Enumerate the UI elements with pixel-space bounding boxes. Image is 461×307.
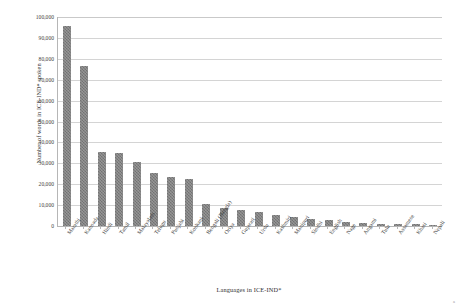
x-label-slot: Sindhi [301, 230, 318, 282]
x-tick-mark [240, 226, 241, 229]
bar [133, 162, 141, 226]
x-label-slot: English [319, 230, 336, 282]
x-label-slot: Punjabi [162, 230, 179, 282]
bar-slot [58, 17, 75, 226]
bar [98, 152, 106, 226]
x-tick-mark [275, 226, 276, 229]
x-label-slot: Hindi [92, 230, 109, 282]
x-tick-mark [222, 226, 223, 229]
x-tick-mark [344, 226, 345, 229]
x-label-slot: Angami [354, 230, 371, 282]
bar-slot [198, 17, 215, 226]
x-tick-mark [327, 226, 328, 229]
x-label-slot: Bengali (Bangla) [197, 230, 214, 282]
x-tick-mark [310, 226, 311, 229]
x-label-slot: Oriya [214, 230, 231, 282]
bar [115, 153, 123, 226]
bar [185, 179, 193, 226]
x-label-slot: Marathi [57, 230, 74, 282]
x-tick-mark [292, 226, 293, 229]
bar-slot [372, 17, 389, 226]
x-label-slot: Urdu [249, 230, 266, 282]
bar-slot [337, 17, 354, 226]
x-label-slot: Nepali [424, 230, 441, 282]
y-axis-tick-label: 80,000 [18, 56, 54, 62]
x-tick-mark [414, 226, 415, 229]
y-axis-tick-label: 20,000 [18, 181, 54, 187]
x-tick-mark [83, 226, 84, 229]
bar-slot [267, 17, 284, 226]
x-tick-mark [257, 226, 258, 229]
x-label-slot: Manipuri [284, 230, 301, 282]
bar-slot [110, 17, 127, 226]
y-axis-tick-labels: 010,00020,00030,00040,00050,00060,00070,… [18, 0, 54, 307]
page-corner-mark: a [453, 299, 455, 304]
x-label-slot: Kannada [74, 230, 91, 282]
x-tick-mark [205, 226, 206, 229]
bar-slot [390, 17, 407, 226]
y-axis-tick-label: 70,000 [18, 77, 54, 83]
x-label-slot: Malayalam [127, 230, 144, 282]
bar-series [58, 17, 442, 226]
bar [237, 210, 245, 226]
x-tick-mark [152, 226, 153, 229]
x-label-slot: Gujarati [232, 230, 249, 282]
bar-slot [285, 17, 302, 226]
bar [202, 204, 210, 226]
bar-slot [180, 17, 197, 226]
bar-slot [163, 17, 180, 226]
bar-slot [145, 17, 162, 226]
x-axis-title: Languages in ICE-IND* [57, 286, 441, 293]
x-label-slot: Konkani [179, 230, 196, 282]
y-axis-tick-label: 60,000 [18, 98, 54, 104]
y-axis-tick-label: 50,000 [18, 119, 54, 125]
bar [167, 177, 175, 226]
x-tick-mark [100, 226, 101, 229]
x-tick-mark [65, 226, 66, 229]
x-label-slot: Nage [336, 230, 353, 282]
bar [63, 26, 71, 226]
bar-slot [320, 17, 337, 226]
x-label-slot: Khasi [406, 230, 423, 282]
bar-slot [93, 17, 110, 226]
x-label-slot: Tulu [371, 230, 388, 282]
x-tick-mark [187, 226, 188, 229]
x-tick-mark [397, 226, 398, 229]
y-axis-tick-label: 100,000 [18, 14, 54, 20]
x-label-slot: Assamese [389, 230, 406, 282]
y-axis-tick-label: 30,000 [18, 160, 54, 166]
x-label-slot: Tamil [109, 230, 126, 282]
bar [80, 66, 88, 226]
y-axis-tick-label: 90,000 [18, 35, 54, 41]
x-tick-mark [379, 226, 380, 229]
x-label-slot: Kashmiri [266, 230, 283, 282]
bar-chart-figure: Number of words in ICE-IND* spoken 010,0… [0, 0, 461, 307]
bar-slot [250, 17, 267, 226]
x-tick-mark [118, 226, 119, 229]
bar-slot [75, 17, 92, 226]
x-tick-mark [432, 226, 433, 229]
bar-slot [215, 17, 232, 226]
y-axis-tick-label: 10,000 [18, 202, 54, 208]
bar-slot [302, 17, 319, 226]
y-axis-tick-label: 0 [18, 223, 54, 229]
x-tick-mark [135, 226, 136, 229]
x-label-slot: Telugu [144, 230, 161, 282]
bar-slot [233, 17, 250, 226]
plot-area [57, 17, 442, 227]
y-axis-tick-label: 40,000 [18, 139, 54, 145]
bar-slot [355, 17, 372, 226]
bar-slot [407, 17, 424, 226]
x-axis-category-labels: MarathiKannadaHindiTamilMalayalamTeluguP… [57, 230, 441, 282]
bar-slot [425, 17, 442, 226]
bar-slot [128, 17, 145, 226]
